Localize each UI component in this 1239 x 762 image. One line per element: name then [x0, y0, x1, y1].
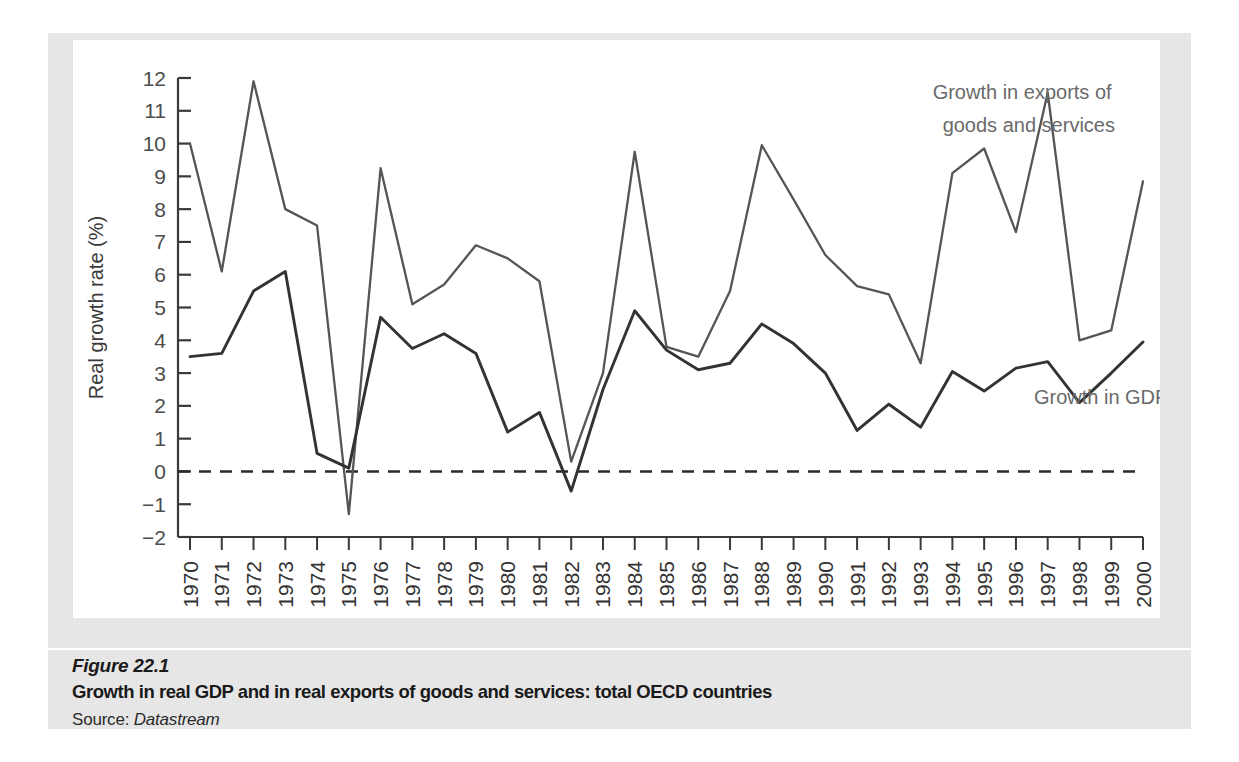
y-axis-tick-label: 2 [154, 394, 166, 417]
x-axis-tick-label: 1973 [274, 561, 297, 608]
y-axis-tick-label: 7 [154, 230, 166, 253]
series-line-gdp [190, 271, 1143, 491]
x-axis-tick-label: 1970 [179, 561, 202, 608]
x-axis-tick-label: 1975 [337, 561, 360, 608]
x-axis-tick-label: 1994 [941, 561, 964, 608]
x-axis-tick-label: 1989 [782, 561, 805, 608]
y-axis-tick-label: 4 [154, 329, 166, 352]
x-axis-tick-label: 1990 [814, 561, 837, 608]
y-axis-tick-label: 12 [143, 67, 166, 90]
x-axis-tick-label: 1999 [1100, 561, 1123, 608]
x-axis-tick-label: 1986 [687, 561, 710, 608]
y-axis-tick-label: 1 [154, 427, 166, 450]
x-axis-tick-label: 1976 [369, 561, 392, 608]
figure-root: −2−1012345678910111219701971197219731974… [0, 0, 1239, 762]
y-axis-tick-label: 3 [154, 362, 166, 385]
x-axis-tick-label: 2000 [1132, 561, 1155, 608]
source-prefix: Source: [72, 710, 134, 729]
x-axis-tick-label: 1977 [401, 561, 424, 608]
chart-plot-card: −2−1012345678910111219701971197219731974… [73, 40, 1160, 618]
figure-caption: Figure 22.1 Growth in real GDP and in re… [72, 656, 1152, 730]
x-axis-tick-label: 1980 [496, 561, 519, 608]
y-axis-tick-label: 0 [154, 460, 166, 483]
x-axis-tick-label: 1981 [528, 561, 551, 608]
x-axis-tick-label: 1988 [750, 561, 773, 608]
y-axis-tick-label: −2 [142, 526, 166, 549]
x-axis-tick-label: 1992 [877, 561, 900, 608]
y-axis-tick-label: 6 [154, 263, 166, 286]
x-axis-tick-label: 1971 [210, 561, 233, 608]
x-axis-tick-label: 1982 [560, 561, 583, 608]
x-axis-tick-label: 1987 [719, 561, 742, 608]
y-axis-tick-label: 11 [144, 99, 166, 122]
figure-source: Source: Datastream [72, 711, 1152, 730]
x-axis-tick-label: 1997 [1036, 561, 1059, 608]
figure-number: Figure 22.1 [72, 656, 1152, 676]
x-axis-tick-label: 1993 [909, 561, 932, 608]
annotation-gdp: Growth in GDP [1034, 386, 1160, 408]
x-axis-tick-label: 1985 [655, 561, 678, 608]
annotation-exports-line1: Growth in exports of [933, 81, 1112, 103]
y-axis-tick-label: 10 [143, 132, 166, 155]
x-axis-tick-label: 1974 [306, 561, 329, 608]
y-axis-tick-label: 8 [154, 198, 166, 221]
x-axis-tick-label: 1972 [242, 561, 265, 608]
source-name: Datastream [134, 710, 220, 729]
y-axis-tick-label: −1 [142, 493, 166, 516]
x-axis-tick-label: 1979 [464, 561, 487, 608]
series-line-exports [190, 81, 1143, 514]
annotation-exports-line2: goods and services [943, 114, 1115, 136]
line-chart: −2−1012345678910111219701971197219731974… [73, 40, 1160, 618]
y-axis-tick-label: 5 [154, 296, 166, 319]
y-axis-title: Real growth rate (%) [85, 216, 107, 399]
x-axis-tick-label: 1998 [1068, 561, 1091, 608]
y-axis-tick-label: 9 [154, 165, 166, 188]
x-axis-tick-label: 1996 [1004, 561, 1027, 608]
figure-title: Growth in real GDP and in real exports o… [72, 682, 1152, 702]
x-axis-tick-label: 1995 [973, 561, 996, 608]
x-axis-tick-label: 1978 [433, 561, 456, 608]
caption-divider [48, 648, 1191, 650]
x-axis-tick-label: 1991 [846, 561, 869, 608]
x-axis-tick-label: 1983 [591, 561, 614, 608]
x-axis-tick-label: 1984 [623, 561, 646, 608]
